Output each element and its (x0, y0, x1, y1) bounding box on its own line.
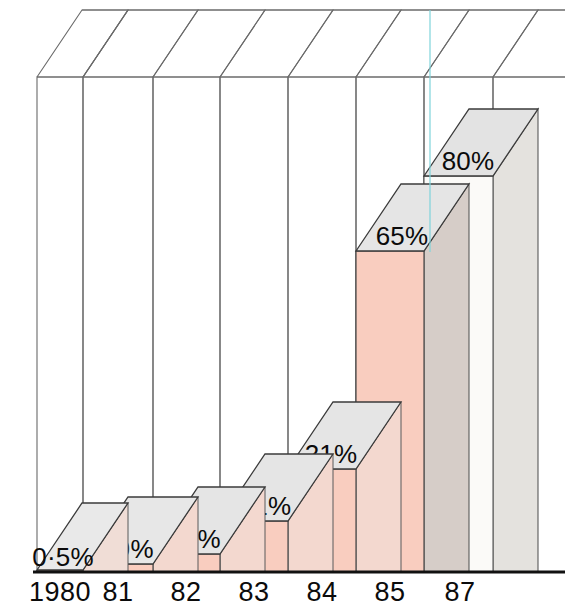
bar-87-value-label: 80% (442, 146, 495, 176)
x-tick-85: 85 (350, 577, 430, 607)
chart-container: 80% 65% 21% 11% (0, 0, 565, 607)
isometric-bar-chart: 80% 65% 21% 11% (0, 0, 565, 607)
bar-1980: 0·5% (32, 503, 128, 572)
bar-87-side-face (493, 109, 538, 572)
bar-85-side-face (424, 184, 469, 572)
x-axis-labels: 1980 81 82 83 84 85 87 (0, 577, 565, 607)
x-tick-87: 87 (420, 577, 500, 607)
bar-1980-value-label: 0·5% (32, 542, 94, 572)
container-81 (83, 10, 198, 572)
bar-85-value-label: 65% (376, 221, 429, 251)
